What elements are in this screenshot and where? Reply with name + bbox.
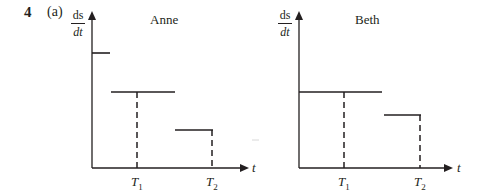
beth-tick-t2-sub: 2	[421, 182, 426, 192]
anne-tick-t1: T1	[131, 174, 143, 192]
beth-x-arrow-icon	[444, 164, 453, 172]
beth-y-arrow-icon	[295, 11, 303, 20]
anne-x-axis-label: t	[252, 160, 256, 176]
anne-tick-t1-sub: 1	[138, 182, 143, 192]
anne-tick-t2-sub: 2	[213, 182, 218, 192]
anne-tick-t2: T2	[206, 174, 218, 192]
beth-x-axis-label: t	[457, 160, 461, 176]
beth-tick-t1-sub: 1	[345, 182, 350, 192]
anne-x-arrow-icon	[240, 164, 249, 172]
beth-tick-t1: T1	[338, 174, 350, 192]
beth-tick-t2: T2	[414, 174, 426, 192]
anne-y-arrow-icon	[88, 11, 96, 20]
graphs-canvas	[0, 0, 484, 192]
